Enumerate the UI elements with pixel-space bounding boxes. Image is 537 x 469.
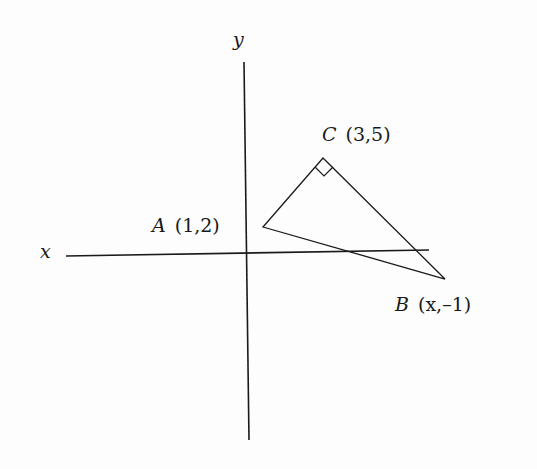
x-axis-label: x bbox=[40, 242, 51, 261]
triangle-abc bbox=[263, 158, 445, 279]
x-axis bbox=[66, 250, 429, 256]
diagram-canvas: y x C(3,5) A(1,2) B(x,–1) bbox=[0, 0, 537, 469]
right-angle-marker bbox=[315, 167, 333, 176]
point-b-label: B(x,–1) bbox=[395, 295, 471, 314]
point-c-label: C(3,5) bbox=[322, 125, 391, 144]
y-axis-label: y bbox=[233, 30, 244, 49]
point-b-name: B bbox=[395, 293, 409, 315]
y-axis bbox=[244, 62, 249, 440]
point-c-coords: (3,5) bbox=[346, 123, 391, 145]
point-a-label: A(1,2) bbox=[152, 216, 220, 235]
diagram-svg bbox=[0, 0, 537, 469]
point-b-coords: (x,–1) bbox=[418, 293, 471, 315]
point-a-coords: (1,2) bbox=[175, 214, 220, 236]
point-c-name: C bbox=[322, 123, 337, 145]
point-a-name: A bbox=[152, 214, 166, 236]
